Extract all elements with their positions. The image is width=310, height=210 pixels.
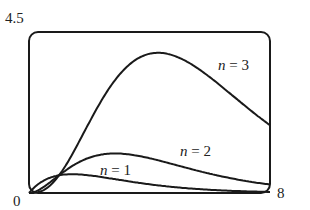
curve-group bbox=[29, 53, 270, 193]
origin-tick-label: 0 bbox=[13, 194, 21, 209]
series-label-n2: n = 2 bbox=[180, 144, 211, 159]
curve-n2 bbox=[29, 154, 270, 194]
x-max-tick-label: 8 bbox=[277, 186, 285, 201]
series-label-n1: n = 1 bbox=[100, 163, 131, 178]
series-label-n3: n = 3 bbox=[218, 58, 249, 73]
curve-n1 bbox=[29, 174, 270, 193]
y-max-tick-label: 4.5 bbox=[5, 11, 24, 26]
chart-plot bbox=[0, 0, 310, 210]
